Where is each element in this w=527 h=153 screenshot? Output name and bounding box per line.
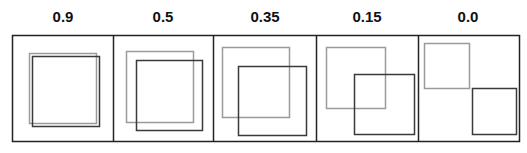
box-b-panel-2 xyxy=(137,61,203,131)
box-b-panel-3 xyxy=(239,67,307,136)
box-a-panel-5 xyxy=(425,44,470,89)
diagram-canvas xyxy=(0,0,527,153)
iou-diagram: 0.9 0.5 0.35 0.15 0.0 xyxy=(0,0,527,153)
box-b-panel-1 xyxy=(33,57,100,127)
box-a-panel-3 xyxy=(223,48,290,118)
box-b-panel-4 xyxy=(355,75,415,135)
box-b-panel-5 xyxy=(473,89,517,135)
box-a-panel-4 xyxy=(327,48,386,109)
box-a-panel-1 xyxy=(30,54,97,124)
